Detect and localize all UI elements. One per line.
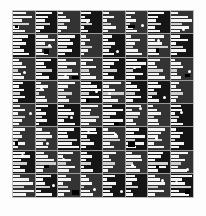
point-marker	[70, 116, 73, 119]
bar	[81, 105, 99, 107]
bar	[103, 16, 114, 18]
bar	[171, 182, 186, 185]
bar	[81, 69, 89, 71]
bar-cell	[81, 151, 104, 174]
bar	[171, 73, 178, 75]
bar-cell	[103, 151, 126, 174]
black-block	[44, 165, 49, 168]
bar	[36, 76, 49, 78]
bar	[148, 193, 155, 196]
bar	[171, 190, 179, 193]
bar-cell	[58, 151, 81, 174]
bar	[13, 146, 18, 148]
point-marker	[163, 96, 166, 99]
bar	[148, 12, 164, 14]
bar	[148, 132, 161, 134]
bar	[36, 16, 48, 18]
bar	[103, 53, 114, 55]
bar	[171, 49, 187, 51]
bar-cell	[36, 174, 59, 197]
point-marker	[46, 142, 49, 145]
bar-cell	[103, 58, 126, 81]
bar-cell	[13, 81, 36, 104]
bar	[171, 159, 185, 161]
bar	[171, 152, 189, 154]
bar	[171, 30, 181, 32]
bar-cell	[126, 58, 149, 81]
bar-cell	[126, 11, 149, 34]
bar	[103, 132, 115, 134]
bar	[103, 162, 115, 164]
bar	[103, 62, 114, 64]
bar	[103, 128, 108, 130]
bar	[13, 76, 24, 78]
bar	[58, 89, 64, 91]
bar	[36, 82, 41, 84]
bar-cell	[58, 34, 81, 57]
bar-cell	[81, 81, 104, 104]
bar	[126, 16, 132, 18]
point-marker	[23, 71, 26, 74]
bar	[58, 30, 61, 32]
bar-cell	[148, 151, 171, 174]
bar	[103, 175, 115, 178]
bar	[103, 85, 109, 87]
bar-cell	[148, 81, 171, 104]
bar	[171, 85, 176, 87]
point-marker	[180, 111, 183, 114]
bar	[148, 82, 158, 84]
bar	[81, 109, 92, 111]
bar	[36, 169, 44, 171]
bar	[126, 85, 138, 87]
bar	[126, 109, 132, 111]
bar	[148, 159, 155, 161]
bar	[13, 169, 25, 171]
bar	[36, 152, 45, 154]
bar	[103, 193, 113, 196]
bar	[81, 42, 86, 44]
black-block	[156, 165, 159, 168]
bar-cell	[13, 174, 36, 197]
bar	[148, 35, 164, 37]
bar-cell	[58, 81, 81, 104]
bar	[36, 66, 47, 68]
bar	[36, 159, 55, 161]
bar	[126, 89, 140, 91]
bar	[58, 82, 75, 84]
bar	[13, 46, 20, 48]
point-marker	[95, 90, 98, 93]
bar	[171, 119, 178, 121]
bar	[171, 123, 184, 125]
bar	[36, 19, 45, 21]
bar	[81, 166, 85, 168]
bar	[81, 89, 101, 91]
bar	[81, 85, 97, 87]
bar	[58, 132, 67, 134]
bar	[81, 16, 86, 18]
bar	[36, 155, 48, 157]
bar	[36, 112, 46, 114]
bar	[36, 119, 47, 121]
black-block	[185, 189, 190, 194]
bar	[58, 96, 66, 98]
bar	[81, 12, 92, 14]
bar-cell	[148, 127, 171, 150]
bar	[171, 162, 181, 164]
bar	[171, 76, 182, 78]
bar	[58, 99, 69, 101]
bar	[13, 135, 22, 137]
bar	[103, 73, 108, 75]
bar	[148, 142, 154, 144]
bar	[81, 92, 90, 94]
bar	[58, 190, 70, 193]
bar	[36, 105, 49, 107]
bar	[171, 132, 184, 134]
bar	[13, 159, 21, 161]
bar	[171, 166, 178, 168]
point-marker	[48, 44, 51, 47]
bar	[103, 109, 123, 111]
point-marker	[131, 164, 134, 167]
bar	[58, 139, 77, 141]
bar-cell	[148, 58, 171, 81]
bar	[13, 123, 19, 125]
